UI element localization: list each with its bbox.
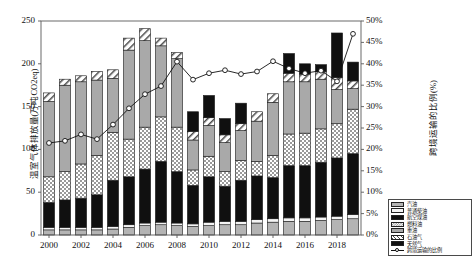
trend-line-marker bbox=[127, 106, 132, 111]
bar-segment bbox=[107, 132, 118, 180]
bar-segment bbox=[283, 166, 294, 218]
bar-segment bbox=[235, 131, 246, 161]
bar-segment bbox=[59, 227, 70, 230]
bar-segment bbox=[203, 177, 214, 222]
legend-item[interactable]: 航空煤油 bbox=[391, 214, 469, 221]
legend-item[interactable]: 石油气 bbox=[391, 234, 469, 241]
bar-segment bbox=[315, 162, 326, 217]
bar-segment bbox=[235, 221, 246, 224]
bar-segment bbox=[75, 76, 86, 82]
bar-segment bbox=[187, 226, 198, 235]
bar-segment bbox=[43, 101, 54, 176]
bar-segment bbox=[155, 222, 166, 225]
legend-label: 汽油 bbox=[407, 201, 417, 208]
y-axis-tick-label: 50 bbox=[5, 186, 35, 196]
bar-segment bbox=[59, 85, 70, 171]
trend-line-marker bbox=[287, 66, 292, 71]
bar-segment bbox=[43, 93, 54, 102]
bar-segment bbox=[251, 121, 262, 161]
bar-segment bbox=[107, 180, 118, 226]
trend-line-marker bbox=[223, 68, 228, 73]
bar-segment bbox=[315, 217, 326, 220]
bar-segment bbox=[347, 62, 358, 81]
bar-segment bbox=[43, 177, 54, 203]
bar-segment bbox=[331, 89, 342, 123]
bar-segment bbox=[219, 119, 230, 135]
y2-axis-tick-label: 50% bbox=[366, 15, 400, 25]
bar-segment bbox=[219, 225, 230, 235]
trend-line-marker bbox=[335, 79, 340, 84]
bar-segment bbox=[347, 214, 358, 218]
y2-axis-tick-label: 25% bbox=[366, 122, 400, 132]
bar-segment bbox=[171, 59, 182, 127]
bar-segment bbox=[235, 161, 246, 181]
bar-segment bbox=[123, 227, 134, 235]
bar-segment bbox=[75, 227, 86, 230]
trend-line-marker bbox=[79, 132, 84, 137]
bar-segment bbox=[91, 195, 102, 228]
bar-segment bbox=[139, 169, 150, 223]
trend-line-marker bbox=[207, 71, 212, 76]
bar-segment bbox=[315, 79, 326, 129]
y2-axis-tick-label: 10% bbox=[366, 186, 400, 196]
y-axis-left-title: 温室气体排放量(万吨CO2eq) bbox=[27, 44, 39, 204]
legend-swatch bbox=[391, 241, 404, 246]
bar-segment bbox=[203, 125, 214, 156]
bar-segment bbox=[123, 139, 134, 177]
bar-segment bbox=[299, 221, 310, 235]
legend-item[interactable]: 燃料油 bbox=[391, 221, 469, 228]
bar-segment bbox=[267, 102, 278, 155]
bar-segment bbox=[299, 82, 310, 133]
bar-segment bbox=[347, 154, 358, 215]
legend-line-marker-swatch bbox=[391, 248, 404, 253]
bar-segment bbox=[203, 222, 214, 225]
y-axis-tick-label: 200 bbox=[5, 58, 35, 68]
bar-segment bbox=[299, 166, 310, 218]
bar-segment bbox=[43, 227, 54, 230]
x-axis-tick-label: 2018 bbox=[317, 240, 357, 250]
bar-segment bbox=[91, 72, 102, 81]
bar-segment bbox=[171, 172, 182, 223]
bar-segment bbox=[107, 70, 118, 79]
bar-segment bbox=[59, 200, 70, 227]
legend-swatch bbox=[391, 222, 404, 227]
trend-line-marker bbox=[63, 138, 68, 143]
bar-segment bbox=[123, 177, 134, 225]
y-axis-tick-label: 150 bbox=[5, 101, 35, 111]
trend-line-marker bbox=[143, 92, 148, 97]
y-axis-tick-label: 0 bbox=[5, 229, 35, 239]
trend-line-marker bbox=[255, 69, 260, 74]
trend-line-marker bbox=[47, 141, 52, 146]
trend-line-marker bbox=[351, 31, 356, 36]
bar-segment bbox=[187, 170, 198, 185]
legend-item[interactable]: 汽油 bbox=[391, 201, 469, 208]
bar-segment bbox=[187, 224, 198, 227]
trend-line-marker bbox=[175, 59, 180, 64]
bar-segment bbox=[187, 131, 198, 140]
bar-segment bbox=[139, 127, 150, 169]
legend-swatch bbox=[391, 215, 404, 220]
trend-line-marker bbox=[95, 137, 100, 142]
bar-segment bbox=[187, 140, 198, 170]
bar-segment bbox=[331, 216, 342, 219]
bar-segment bbox=[155, 38, 166, 46]
bar-segment bbox=[123, 50, 134, 139]
bar-segment bbox=[155, 46, 166, 117]
bar-segment bbox=[251, 220, 262, 223]
bar-segment bbox=[347, 89, 358, 110]
bar-segment bbox=[155, 161, 166, 222]
bar-segment bbox=[267, 219, 278, 222]
bar-segment bbox=[107, 229, 118, 235]
bar-segment bbox=[59, 230, 70, 235]
legend-swatch bbox=[391, 235, 404, 240]
legend-item[interactable]: 跨境运输的比例 bbox=[391, 247, 469, 254]
bar-segment bbox=[203, 226, 214, 235]
bar-segment bbox=[267, 178, 278, 219]
bar-segment bbox=[267, 155, 278, 177]
legend-item[interactable]: 普通柴油 bbox=[391, 208, 469, 215]
trend-line-marker bbox=[271, 59, 276, 64]
bar-segment bbox=[139, 223, 150, 226]
bar-segment bbox=[139, 41, 150, 127]
legend-swatch bbox=[391, 208, 404, 213]
legend-item[interactable]: 重油 bbox=[391, 227, 469, 234]
